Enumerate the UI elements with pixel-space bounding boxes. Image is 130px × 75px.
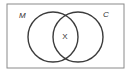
venn-diagram: M C X [0,0,130,75]
set-c-label: C [103,10,109,19]
set-m-label: M [19,11,26,20]
intersection-label: X [62,32,68,41]
